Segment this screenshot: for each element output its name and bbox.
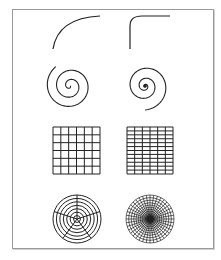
polar-grid-left (53, 195, 101, 243)
polar-grid-right (126, 195, 174, 243)
cartesian-grid-left (53, 127, 100, 174)
arc-left (53, 16, 100, 49)
arc-right (130, 16, 170, 49)
figure-canvas (0, 0, 221, 260)
spiral-left (47, 67, 88, 107)
spiral-right (130, 68, 166, 110)
cartesian-grid-right (127, 127, 173, 174)
